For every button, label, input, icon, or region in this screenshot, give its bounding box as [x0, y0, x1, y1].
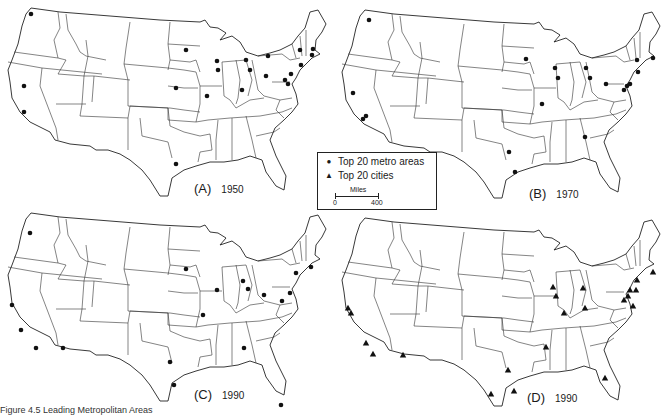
metro-dot-marker	[635, 58, 640, 63]
metro-dot-marker	[604, 82, 609, 87]
metro-dot-marker	[22, 110, 27, 115]
metro-dot-marker	[279, 403, 284, 408]
legend-city-row: ▲ Top 20 cities	[324, 170, 394, 181]
panel-year: 1970	[556, 189, 578, 200]
metro-dot-marker	[244, 58, 249, 63]
map-panel-d: (D)1990	[334, 210, 664, 415]
metro-dot-marker	[174, 86, 179, 91]
metro-dot-marker	[294, 271, 299, 276]
metro-dot-marker	[22, 84, 27, 89]
metro-dot-marker	[310, 53, 315, 58]
metro-dot-marker	[61, 346, 66, 351]
metro-dot-marker	[625, 84, 630, 89]
metro-dot-marker	[298, 48, 303, 53]
metro-dot-marker	[215, 59, 220, 64]
panel-label-c: (C)1990	[194, 387, 244, 402]
map-legend: ● Top 20 metro areas ▲ Top 20 cities Mil…	[317, 152, 437, 210]
metro-dot-marker	[351, 91, 356, 96]
legend-metro-label: Top 20 metro areas	[338, 156, 424, 167]
metro-dot-marker	[264, 74, 269, 79]
metro-dot-marker	[588, 76, 593, 81]
metro-dot-marker	[168, 360, 173, 365]
metro-dot-marker	[513, 170, 518, 175]
metro-dot-marker	[636, 70, 641, 75]
metro-dot-marker	[242, 346, 247, 351]
metro-dot-marker	[540, 102, 545, 107]
metro-dot-marker	[584, 66, 589, 71]
panel-label-a: (A)1950	[194, 181, 244, 196]
panel-label-b: (B)1970	[529, 186, 579, 201]
metro-dot-marker	[248, 68, 253, 73]
metro-dot-marker	[283, 78, 288, 83]
metro-dot-marker	[309, 265, 314, 270]
metro-dot-marker	[184, 48, 189, 53]
metro-dot-marker	[216, 68, 221, 73]
metro-dot-marker	[553, 66, 558, 71]
city-triangle-marker	[511, 388, 517, 394]
us-map-c	[0, 205, 330, 410]
map-panel-c: (C)1990	[0, 205, 330, 410]
metro-dot-marker	[29, 12, 34, 17]
metro-dot-marker	[10, 303, 15, 308]
metro-dot-marker	[262, 293, 267, 298]
figure-caption: Figure 4.5 Leading Metropolitan Areas	[0, 405, 153, 415]
metro-dot-marker	[184, 267, 189, 272]
us-map-d	[334, 210, 664, 415]
metro-dot-marker	[19, 328, 24, 333]
circle-marker-icon: ●	[324, 157, 334, 166]
metro-dot-marker	[651, 56, 656, 61]
legend-city-label: Top 20 cities	[338, 170, 394, 181]
panel-letter: (D)	[527, 390, 545, 405]
city-triangle-marker	[363, 340, 369, 346]
scale-max-label: 400	[371, 199, 383, 206]
metro-dot-marker	[364, 114, 369, 119]
metro-dot-marker	[266, 54, 271, 59]
metro-dot-marker	[289, 72, 294, 77]
panel-year: 1950	[221, 184, 243, 195]
scale-line	[335, 196, 378, 197]
city-triangle-marker	[633, 287, 639, 293]
scale-bar: Miles 0 400	[332, 186, 392, 206]
metro-dot-marker	[172, 383, 177, 388]
panel-year: 1990	[222, 390, 244, 401]
metro-dot-marker	[280, 299, 285, 304]
metro-dot-marker	[622, 88, 627, 93]
metro-dot-marker	[241, 279, 246, 284]
panel-letter: (B)	[529, 186, 546, 201]
metro-dot-marker	[201, 313, 206, 318]
map-panel-a: (A)1950	[0, 0, 330, 205]
metro-dot-marker	[215, 288, 220, 293]
metro-dot-marker	[524, 57, 529, 62]
panel-letter: (A)	[194, 181, 211, 196]
metro-dot-marker	[240, 88, 245, 93]
metro-dot-marker	[34, 346, 39, 351]
scale-title: Miles	[350, 186, 366, 193]
scale-min-label: 0	[333, 199, 337, 206]
metro-dot-marker	[288, 291, 293, 296]
metro-dot-marker	[205, 94, 210, 99]
panel-letter: (C)	[194, 387, 212, 402]
metro-dot-marker	[556, 76, 561, 81]
metro-dot-marker	[311, 47, 316, 52]
panel-label-d: (D)1990	[527, 390, 577, 405]
legend-metro-row: ● Top 20 metro areas	[324, 156, 424, 167]
metro-dot-marker	[507, 150, 512, 155]
city-triangle-marker	[370, 351, 376, 357]
metro-dot-marker	[367, 18, 372, 23]
metro-dot-marker	[299, 63, 304, 68]
city-triangle-marker	[650, 269, 656, 275]
metro-dot-marker	[583, 135, 588, 140]
panel-year: 1990	[555, 393, 577, 404]
triangle-marker-icon: ▲	[324, 171, 334, 180]
metro-dot-marker	[286, 82, 291, 87]
us-map-a	[0, 0, 330, 205]
metro-dot-marker	[174, 162, 179, 167]
metro-dot-marker	[28, 231, 33, 236]
metro-dot-marker	[246, 287, 251, 292]
